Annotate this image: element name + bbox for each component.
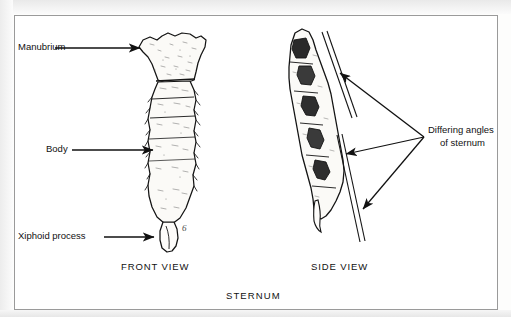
- figure-page: Manubrium Body Xiphoid process FRONT VIE…: [0, 0, 511, 317]
- label-xiphoid-process: Xiphoid process: [18, 230, 86, 241]
- leader-lines-front: [55, 48, 154, 237]
- label-differing-angles-line1: Differing angles: [428, 124, 494, 135]
- label-side-view: SIDE VIEW: [311, 261, 368, 272]
- page-number-mark: 6: [182, 223, 187, 233]
- sternum-illustration: [0, 0, 511, 317]
- side-view-sternum-bone: [289, 29, 344, 232]
- label-manubrium: Manubrium: [18, 41, 66, 52]
- label-body: Body: [46, 143, 68, 154]
- figure-caption: STERNUM: [226, 290, 281, 301]
- label-differing-angles-line2: of sternum: [440, 137, 485, 148]
- label-front-view: FRONT VIEW: [121, 261, 189, 272]
- leader-lines-differing-angles: [340, 73, 424, 209]
- front-view-sternum-bone: [139, 33, 206, 252]
